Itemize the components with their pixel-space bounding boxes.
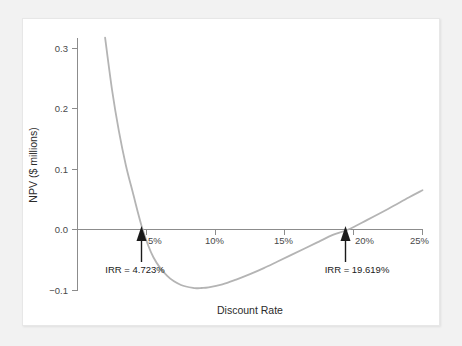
y-axis-title: NPV ($ millions) [27, 127, 39, 202]
npv-curve [105, 38, 422, 289]
irr-low-arrow-head [137, 226, 147, 241]
irr-high-label: IRR = 19.619% [325, 264, 390, 275]
irr-low-label: IRR = 4.723% [105, 264, 165, 275]
y-tick-label-4: −0.1 [49, 285, 68, 296]
x-tick-label-0: 5% [148, 235, 162, 246]
y-tick-label-0: 0.3 [55, 43, 68, 54]
irr-low-arrow [137, 226, 147, 262]
y-tick-label-2: 0.1 [55, 164, 68, 175]
figure-root: 0.3 0.2 0.1 0.0 −0.1 5% 10% 15% 20% 25% … [0, 0, 462, 346]
x-tick-label-1: 10% [205, 235, 225, 246]
npv-irr-chart: 0.3 0.2 0.1 0.0 −0.1 5% 10% 15% 20% 25% … [0, 0, 462, 346]
y-tick-label-3: 0.0 [55, 224, 68, 235]
x-tick-label-2: 15% [274, 235, 294, 246]
y-tick-label-1: 0.2 [55, 103, 68, 114]
x-tick-label-4: 25% [410, 235, 430, 246]
x-axis-title: Discount Rate [217, 304, 283, 316]
x-tick-label-3: 20% [355, 235, 375, 246]
